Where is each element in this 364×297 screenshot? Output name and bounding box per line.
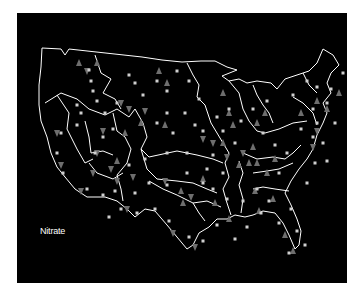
site-square-marker [342,72,345,75]
site-square-marker [194,124,197,127]
triangle-up-marker [76,59,82,66]
site-square-marker [90,80,93,83]
site-square-marker [148,182,151,185]
site-square-marker [212,188,215,191]
site-square-marker [222,172,225,175]
triangle-down-marker [124,206,130,213]
site-square-marker [266,100,269,103]
site-square-marker [144,158,147,161]
site-square-marker [96,100,99,103]
site-square-marker [92,90,95,93]
triangle-up-marker [164,79,170,86]
site-square-marker [326,102,329,105]
site-square-marker [156,80,159,83]
triangle-down-marker [54,130,60,137]
site-square-marker [136,212,139,215]
site-square-marker [76,124,79,127]
triangle-down-marker [224,154,230,161]
site-square-marker [222,130,225,133]
site-square-marker [314,162,317,165]
site-square-marker [168,220,171,223]
site-square-marker [120,208,123,211]
site-square-marker [322,142,325,145]
triangle-up-marker [122,129,128,136]
site-square-marker [326,160,329,163]
triangle-down-marker [142,108,148,115]
triangle-down-marker [58,162,64,169]
site-square-marker [256,188,259,191]
site-square-marker [62,172,65,175]
triangle-up-marker [220,89,226,96]
site-square-marker [134,82,137,85]
site-square-marker [142,94,145,97]
site-square-marker [202,240,205,243]
triangle-down-marker [130,174,136,181]
triangle-up-marker [314,97,320,104]
site-square-marker [300,128,303,131]
site-square-marker [312,108,315,111]
site-square-marker [166,112,169,115]
triangle-up-marker [264,169,270,176]
triangle-up-marker [250,143,256,150]
triangle-down-marker [170,230,176,237]
site-square-marker [234,142,237,145]
site-square-marker [228,108,231,111]
site-square-marker [198,98,201,101]
site-square-marker [80,112,83,115]
site-square-marker [206,168,209,171]
triangle-down-marker [192,244,198,251]
site-square-marker [290,208,293,211]
triangle-down-marker [100,128,106,135]
site-square-marker [188,80,191,83]
us-basin-map [17,13,347,283]
triangle-up-marker [230,121,236,128]
site-square-marker [186,152,189,155]
site-square-marker [306,80,309,83]
site-square-marker [252,108,255,111]
triangle-up-marker [200,175,206,182]
squares-layer [56,69,345,255]
site-square-marker [202,130,205,133]
triangle-up-marker [246,159,252,166]
site-square-marker [184,112,187,115]
site-square-marker [306,182,309,185]
site-square-marker [292,94,295,97]
map-panel: Nitrate [17,13,347,283]
site-square-marker [104,112,107,115]
site-square-marker [166,184,169,187]
site-square-marker [94,152,97,155]
triangle-down-marker [108,166,114,173]
site-square-marker [312,136,315,139]
us-outline [39,48,339,249]
site-square-marker [112,128,115,131]
triangle-up-marker [94,59,100,66]
site-square-marker [242,200,245,203]
site-square-marker [108,216,111,219]
site-square-marker [330,88,333,91]
site-square-marker [56,152,59,155]
triangle-up-marker [212,199,218,206]
site-square-marker [216,224,219,227]
site-square-marker [114,190,117,193]
site-square-marker [76,104,79,107]
site-square-marker [286,152,289,155]
site-square-marker [116,102,119,105]
site-square-marker [128,74,131,77]
site-square-marker [246,226,249,229]
site-square-marker [274,144,277,147]
site-square-marker [154,208,157,211]
triangle-up-marker [270,195,276,202]
triangle-up-marker [114,157,120,164]
site-square-marker [240,120,243,123]
triangle-down-marker [90,170,96,177]
triangle-up-marker [156,67,162,74]
triangle-up-marker [236,161,242,168]
site-square-marker [316,122,319,125]
site-square-marker [186,172,189,175]
site-square-marker [288,252,291,255]
site-square-marker [172,132,175,135]
triangle-up-marker [336,89,342,96]
triangle-up-marker [162,121,168,128]
site-square-marker [226,198,229,201]
site-square-marker [176,70,179,73]
